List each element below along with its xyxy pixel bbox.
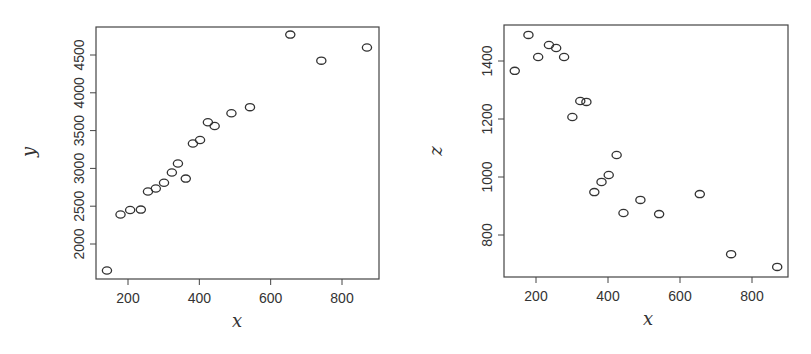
data-points [102, 31, 371, 274]
data-point-marker [181, 175, 190, 182]
data-point-marker [695, 191, 704, 198]
y-tick-label: 3500 [71, 115, 87, 146]
y-tick-label: 3000 [71, 153, 87, 184]
data-point-marker [136, 206, 145, 213]
data-point-marker [203, 119, 212, 126]
data-point-marker [286, 31, 295, 38]
data-point-marker [159, 179, 168, 186]
x-tick-label: 800 [330, 290, 354, 306]
data-point-marker [612, 151, 621, 158]
x-tick-label: 400 [188, 290, 212, 306]
y-axis: 200025003000350040004500 [71, 39, 96, 259]
x-axis-title: x [232, 310, 242, 331]
x-axis: 200400600800 [116, 279, 354, 306]
data-point-marker [116, 211, 125, 218]
y-tick-label: 1000 [479, 161, 495, 192]
data-point-marker [524, 31, 533, 38]
plot-frame [96, 27, 379, 279]
data-point-marker [126, 206, 135, 213]
x-axis: 200400600800 [524, 277, 764, 304]
y-axis-title: y [18, 146, 39, 158]
y-tick-label: 2500 [71, 190, 87, 221]
data-points [510, 31, 782, 270]
scatter-plot-x-vs-z: 200400600800800100012001400xz [405, 0, 810, 354]
plot-frame [504, 25, 788, 277]
plot-canvas-left: 200400600800200025003000350040004500xy [0, 0, 405, 354]
data-point-marker [195, 136, 204, 143]
data-point-marker [636, 196, 645, 203]
y-tick-label: 1200 [479, 103, 495, 134]
x-axis-title: x [643, 308, 653, 329]
data-point-marker [167, 169, 176, 176]
data-point-marker [582, 98, 591, 105]
x-tick-label: 200 [524, 288, 548, 304]
data-point-marker [727, 251, 736, 258]
data-point-marker [597, 178, 606, 185]
data-point-marker [773, 263, 782, 270]
plot-canvas-right: 200400600800800100012001400xz [405, 0, 811, 354]
y-tick-label: 800 [479, 223, 495, 247]
data-point-marker [552, 44, 561, 51]
data-point-marker [102, 267, 111, 274]
y-tick-label: 4500 [71, 39, 87, 70]
data-point-marker [510, 67, 519, 74]
data-point-marker [245, 104, 254, 111]
x-tick-label: 800 [740, 288, 764, 304]
data-point-marker [317, 57, 326, 64]
data-point-marker [604, 171, 613, 178]
y-tick-label: 4000 [71, 77, 87, 108]
x-tick-label: 600 [259, 290, 283, 306]
data-point-marker [559, 53, 568, 60]
scatter-plot-x-vs-y: 200400600800200025003000350040004500xy [0, 0, 405, 354]
data-point-marker [210, 122, 219, 129]
data-point-marker [568, 113, 577, 120]
x-tick-label: 200 [116, 290, 140, 306]
y-axis: 800100012001400 [479, 45, 504, 246]
data-point-marker [173, 160, 182, 167]
y-tick-label: 2000 [71, 228, 87, 259]
data-point-marker [227, 110, 236, 117]
x-tick-label: 600 [668, 288, 692, 304]
data-point-marker [362, 44, 371, 51]
data-point-marker [619, 209, 628, 216]
data-point-marker [151, 185, 160, 192]
data-point-marker [655, 211, 664, 218]
y-axis-title: z [425, 146, 446, 157]
x-tick-label: 400 [596, 288, 620, 304]
y-tick-label: 1400 [479, 45, 495, 76]
data-point-marker [590, 188, 599, 195]
data-point-marker [534, 53, 543, 60]
